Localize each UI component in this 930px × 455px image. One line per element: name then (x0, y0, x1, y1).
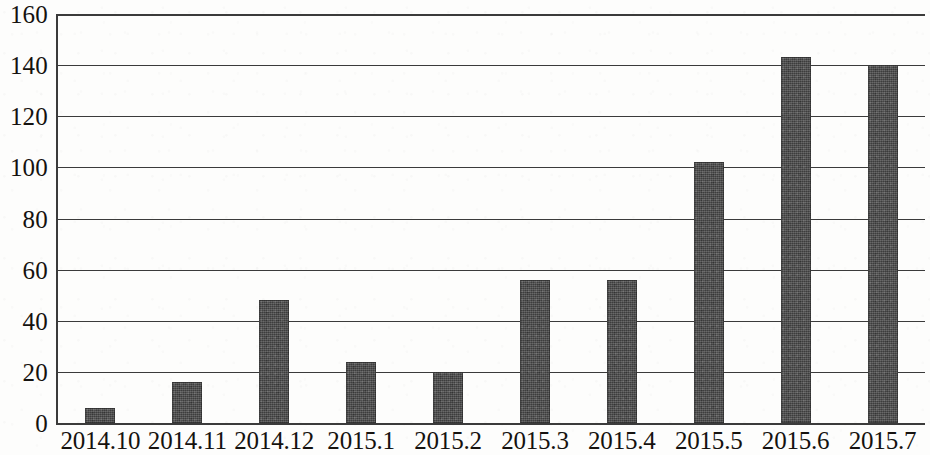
x-tick-label-2015.2: 2015.2 (405, 427, 492, 455)
gridline-0 (56, 423, 925, 425)
bar (520, 280, 550, 423)
y-tick-label-140: 140 (0, 53, 48, 78)
bar (346, 362, 376, 423)
y-axis-tick-labels: 160140120100806040200 (0, 14, 48, 423)
x-tick-label-2015.7: 2015.7 (839, 427, 926, 455)
y-tick-label-160: 160 (0, 2, 48, 27)
x-axis-tick-labels: 2014.102014.112014.122015.12015.22015.32… (0, 427, 930, 455)
y-tick-label-60: 60 (0, 257, 48, 282)
bar (259, 300, 289, 423)
x-tick-label-2014.12: 2014.12 (231, 427, 318, 455)
y-tick-label-20: 20 (0, 359, 48, 384)
x-tick-label-2015.3: 2015.3 (492, 427, 579, 455)
bar (607, 280, 637, 423)
bar (433, 372, 463, 423)
bar-chart-figure: 160140120100806040200 2014.102014.112014… (0, 0, 930, 455)
x-tick-label-2015.1: 2015.1 (318, 427, 405, 455)
x-tick-label-2015.6: 2015.6 (752, 427, 839, 455)
x-tick-label-2014.10: 2014.10 (57, 427, 144, 455)
plot-area (56, 14, 925, 423)
bar (694, 162, 724, 423)
x-tick-label-2015.4: 2015.4 (578, 427, 665, 455)
y-tick-label-120: 120 (0, 104, 48, 129)
bar (85, 408, 115, 423)
bar (781, 57, 811, 423)
y-tick-label-100: 100 (0, 155, 48, 180)
x-tick-label-2014.11: 2014.11 (144, 427, 231, 455)
y-tick-label-40: 40 (0, 308, 48, 333)
y-tick-label-80: 80 (0, 206, 48, 231)
bar (868, 65, 898, 423)
gridline-160 (56, 14, 925, 16)
x-tick-label-2015.5: 2015.5 (665, 427, 752, 455)
bar (172, 382, 202, 423)
